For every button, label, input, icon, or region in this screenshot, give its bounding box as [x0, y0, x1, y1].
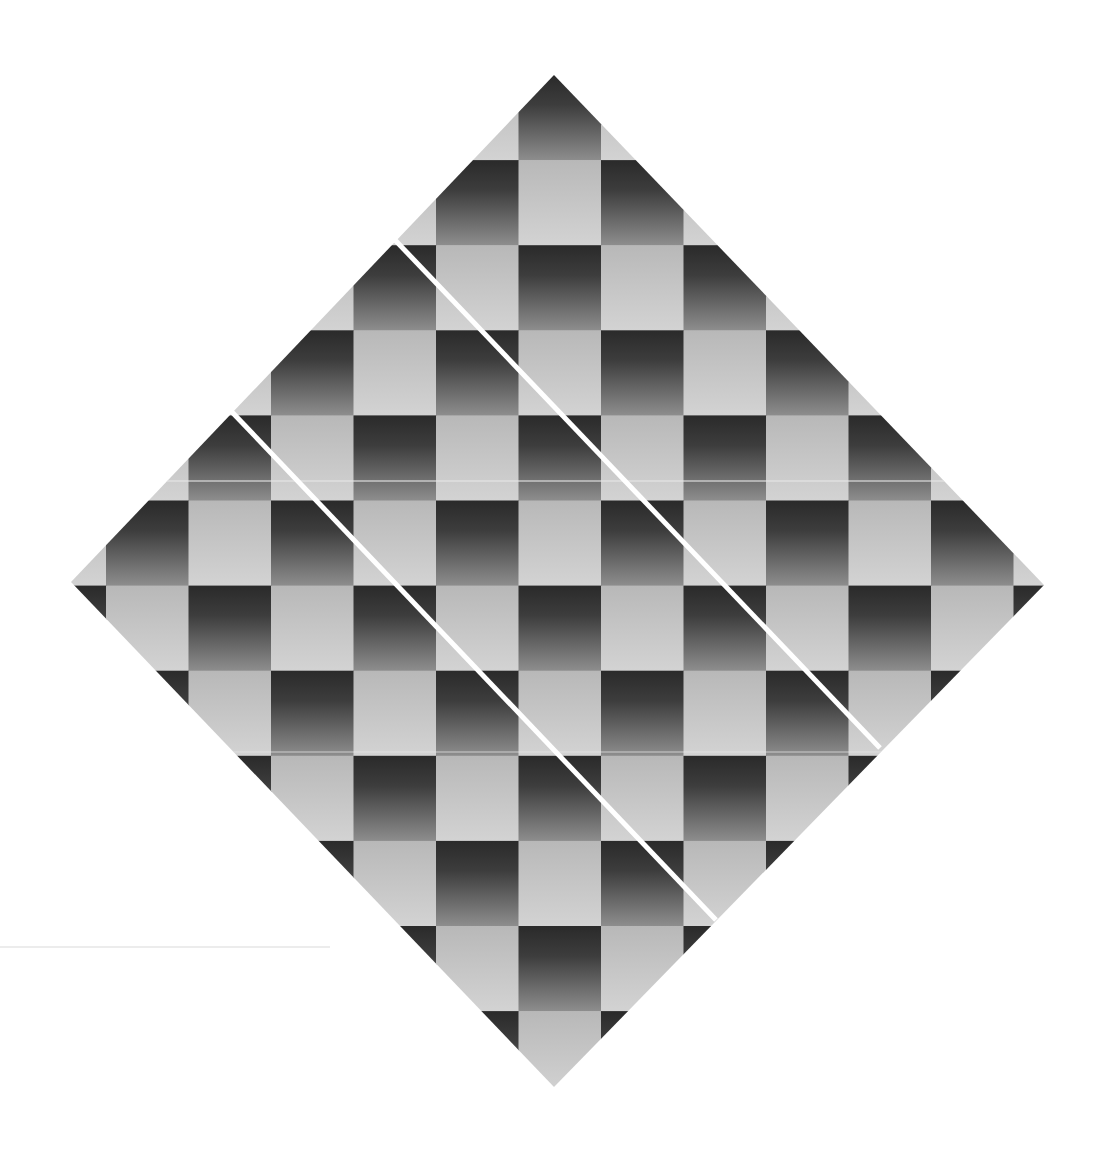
light-tile: [354, 330, 437, 416]
light-tile: [436, 756, 519, 842]
light-tile: [436, 415, 519, 501]
light-tile: [519, 160, 602, 246]
light-tile: [519, 501, 602, 587]
dark-tile: [436, 671, 519, 757]
light-tile: [766, 586, 849, 672]
light-tile: [601, 245, 684, 331]
light-tile: [601, 756, 684, 842]
dark-tile: [519, 245, 602, 331]
dark-tile: [684, 415, 767, 501]
light-tile: [684, 671, 767, 757]
light-tile: [354, 671, 437, 757]
dark-tile: [354, 415, 437, 501]
dark-tile: [436, 330, 519, 416]
light-tile: [271, 415, 354, 501]
dark-tile: [601, 671, 684, 757]
light-tile: [601, 586, 684, 672]
light-tile: [436, 586, 519, 672]
light-tile: [354, 501, 437, 587]
light-tile: [436, 245, 519, 331]
light-tile: [849, 501, 932, 587]
dark-tile: [766, 501, 849, 587]
light-tile: [601, 415, 684, 501]
dark-tile: [354, 586, 437, 672]
light-tile: [189, 501, 272, 587]
dark-tile: [271, 671, 354, 757]
dark-tile: [354, 756, 437, 842]
dark-tile: [519, 415, 602, 501]
light-tile: [766, 415, 849, 501]
dark-tile: [601, 330, 684, 416]
checkerboard-diamond-figure: [0, 0, 1098, 1149]
light-tile: [684, 501, 767, 587]
dark-tile: [519, 756, 602, 842]
dark-tile: [601, 841, 684, 927]
light-tile: [271, 586, 354, 672]
dark-tile: [189, 586, 272, 672]
dark-tile: [849, 586, 932, 672]
dark-tile: [436, 841, 519, 927]
dark-tile: [684, 586, 767, 672]
light-tile: [684, 330, 767, 416]
dark-tile: [271, 501, 354, 587]
dark-tile: [519, 926, 602, 1012]
light-tile: [519, 671, 602, 757]
dark-tile: [436, 501, 519, 587]
dark-tile: [766, 671, 849, 757]
light-tile: [519, 841, 602, 927]
light-tile: [519, 330, 602, 416]
dark-tile: [684, 756, 767, 842]
dark-tile: [601, 501, 684, 587]
dark-tile: [519, 586, 602, 672]
